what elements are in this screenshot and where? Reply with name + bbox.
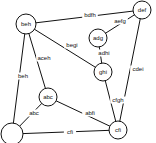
node-empty — [1, 123, 23, 143]
node-label: cfi — [115, 127, 121, 133]
node-def: def — [133, 1, 151, 19]
edge-label: abc — [29, 110, 39, 116]
node-label: beh — [21, 21, 31, 27]
node-label: adg — [93, 35, 103, 41]
node-label: def — [138, 7, 147, 13]
edge-label: beh — [18, 73, 28, 79]
node-label: ghi — [99, 69, 107, 75]
edge-label: cdei — [132, 66, 143, 72]
node-cfi: cfi — [109, 121, 127, 139]
node-ghi: ghi — [94, 63, 112, 81]
node-label: abc — [43, 94, 53, 100]
edge-label: begi — [66, 42, 77, 48]
node-beh: beh — [16, 14, 36, 34]
edge-label: adhi — [98, 50, 109, 56]
node-abc: abc — [39, 88, 57, 106]
edge-label: abfi — [85, 110, 95, 116]
edge-label: cfi — [67, 129, 73, 135]
node-circle — [1, 123, 23, 143]
edge-label: aceh — [37, 55, 50, 61]
edge-label: aefg — [114, 18, 126, 24]
edge-label: bdfh — [84, 12, 96, 18]
edge-label: cfgh — [112, 97, 123, 103]
graph-diagram: bdfhaefgbegiadhicdeicfghacehbehabcabficf… — [0, 0, 156, 143]
node-adg: adg — [89, 29, 107, 47]
